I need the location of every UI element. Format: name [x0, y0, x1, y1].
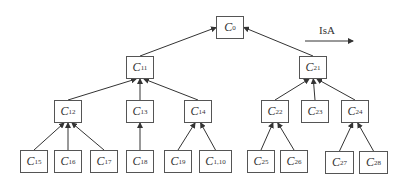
isa-edge-c25-to-c22: [261, 123, 273, 150]
isa-edge-c22-to-c21: [275, 79, 309, 100]
node-subscript: 21: [314, 64, 321, 72]
concept-node-c18: C18: [126, 150, 154, 173]
node-label: C: [60, 154, 68, 169]
node-subscript: 25: [262, 158, 269, 166]
concept-node-c23: C23: [301, 100, 329, 123]
node-subscript: 19: [179, 158, 186, 166]
isa-edge-c23-to-c21: [313, 79, 315, 100]
node-label: C: [26, 154, 34, 169]
isa-edge-c17-to-c12: [72, 123, 104, 150]
concept-node-c26: C26: [280, 150, 308, 173]
concept-node-c13: C13: [126, 100, 154, 123]
node-label: C: [286, 154, 294, 169]
node-label: C: [190, 104, 198, 119]
concept-node-c25: C25: [247, 150, 275, 173]
node-subscript: 22: [276, 108, 283, 116]
isa-edge-c12-to-c11: [68, 79, 136, 100]
concept-node-c11: C11: [126, 56, 154, 79]
concept-node-c27: C27: [325, 151, 354, 174]
node-subscript: 0: [232, 24, 236, 32]
node-label: C: [366, 155, 374, 170]
node-subscript: 18: [141, 158, 148, 166]
node-label: C: [224, 20, 232, 35]
node-subscript: 23: [316, 108, 323, 116]
node-subscript: 24: [356, 108, 363, 116]
node-subscript: 13: [141, 108, 148, 116]
node-label: C: [205, 154, 213, 169]
isa-edge-c15-to-c12: [34, 123, 64, 150]
node-label: C: [96, 154, 104, 169]
node-label: C: [170, 154, 178, 169]
node-label: C: [332, 155, 340, 170]
node-subscript: 16: [69, 158, 76, 166]
isa-edge-c19-to-c14: [178, 123, 195, 150]
node-label: C: [307, 104, 315, 119]
isa-edge-c110-to-c14: [201, 123, 216, 150]
node-label: C: [347, 104, 355, 119]
node-label: C: [132, 154, 140, 169]
isa-edges: [34, 28, 374, 152]
node-subscript: 28: [374, 159, 381, 167]
concept-node-c0: C0: [216, 16, 244, 39]
node-subscript: 15: [35, 158, 42, 166]
isa-edge-c26-to-c22: [278, 123, 294, 150]
node-label: C: [267, 104, 275, 119]
node-subscript: 11: [141, 64, 148, 72]
node-subscript: 26: [295, 158, 302, 166]
node-subscript: 1,10: [213, 158, 225, 166]
concept-node-c14: C14: [184, 100, 212, 123]
concept-node-c12: C12: [54, 100, 82, 123]
concept-node-c15: C15: [20, 150, 48, 173]
concept-node-c21: C21: [299, 56, 327, 79]
concept-node-c22: C22: [261, 100, 289, 123]
isa-edge-c28-to-c24: [358, 123, 374, 151]
node-subscript: 27: [340, 159, 347, 167]
concept-node-c24: C24: [341, 100, 369, 123]
node-label: C: [253, 154, 261, 169]
isa-edge-c27-to-c24: [340, 123, 353, 151]
concept-node-c16: C16: [54, 150, 82, 173]
node-label: C: [133, 60, 141, 75]
concept-node-c110: C1,10: [199, 150, 232, 173]
concept-node-c28: C28: [359, 151, 388, 174]
node-subscript: 17: [105, 158, 112, 166]
isa-edge-c24-to-c21: [317, 79, 355, 100]
concept-node-c17: C17: [90, 150, 118, 173]
node-subscript: 14: [199, 108, 206, 116]
isa-edge-c21-to-c0: [244, 28, 313, 57]
node-subscript: 12: [69, 108, 76, 116]
node-label: C: [60, 104, 68, 119]
isa-edge-c11-to-c0: [140, 28, 216, 57]
legend-isa-label: IsA: [319, 24, 335, 36]
node-label: C: [305, 60, 313, 75]
concept-node-c19: C19: [164, 150, 192, 173]
node-label: C: [132, 104, 140, 119]
isa-edge-c14-to-c11: [144, 79, 198, 100]
